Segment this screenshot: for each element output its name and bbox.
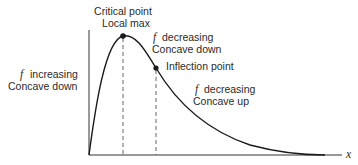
left-region-line1: increasing — [30, 68, 78, 80]
critical-point-marker — [120, 33, 126, 39]
x-axis-label: x — [345, 148, 352, 160]
left-region-line2: Concave down — [8, 80, 78, 92]
inflection-point-label: Inflection point — [166, 60, 234, 72]
critical-point-label: Critical point — [94, 5, 152, 17]
middle-region-line1: decreasing — [162, 31, 214, 43]
local-max-label: Local max — [102, 17, 151, 29]
function-diagram: x Critical point Local max f increasing … — [0, 0, 358, 165]
right-region-line1: decreasing — [204, 83, 256, 95]
middle-region-line2: Concave down — [152, 43, 222, 55]
inflection-point-marker — [153, 65, 158, 70]
right-region-line2: Concave up — [193, 95, 249, 107]
